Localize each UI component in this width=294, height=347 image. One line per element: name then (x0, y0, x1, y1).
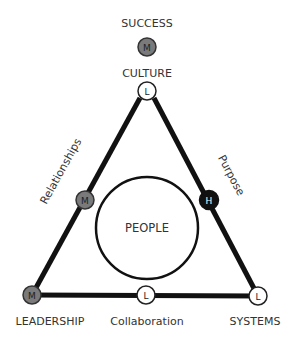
systems-level: L (255, 292, 260, 302)
systems-label: SYSTEMS (230, 315, 281, 328)
leadership-node: M (23, 286, 41, 304)
collaboration-level: L (143, 291, 148, 301)
relationships-level: M (81, 196, 89, 206)
purpose-label: Purpose (215, 153, 247, 198)
leadership-level: M (28, 291, 36, 301)
success-level: M (143, 43, 151, 53)
success-label: SUCCESS (121, 17, 172, 30)
relationships-node: M (76, 191, 94, 209)
culture-node: L (138, 82, 156, 100)
people-triangle-diagram: PEOPLE SUCCESS M CULTURE L Relationships… (0, 0, 294, 347)
collaboration-label: Collaboration (110, 315, 183, 328)
systems-node: L (249, 287, 267, 305)
leadership-label: LEADERSHIP (16, 315, 85, 328)
purpose-node: H (200, 191, 219, 210)
culture-label: CULTURE (122, 67, 172, 80)
success-node: M (138, 38, 156, 56)
culture-level: L (144, 87, 149, 97)
purpose-level: H (206, 196, 213, 206)
collaboration-node: L (137, 286, 155, 304)
people-label: PEOPLE (125, 221, 169, 235)
